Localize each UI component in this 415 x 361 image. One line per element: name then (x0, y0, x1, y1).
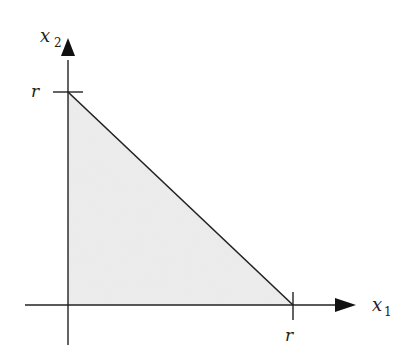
x2-axis-label-subscript: 2 (54, 36, 62, 50)
x1-axis-label: x (372, 294, 382, 315)
x2-axis-label: x (40, 25, 50, 46)
x1-axis-arrow-icon (335, 298, 356, 312)
x2-axis-tick-label: r (31, 81, 40, 101)
x2-axis-arrow-icon (61, 38, 75, 56)
x1-axis-tick-label: r (285, 325, 294, 345)
diagram-canvas: r r x 2 x 1 (0, 0, 415, 361)
x1-axis-label-subscript: 1 (384, 305, 392, 319)
